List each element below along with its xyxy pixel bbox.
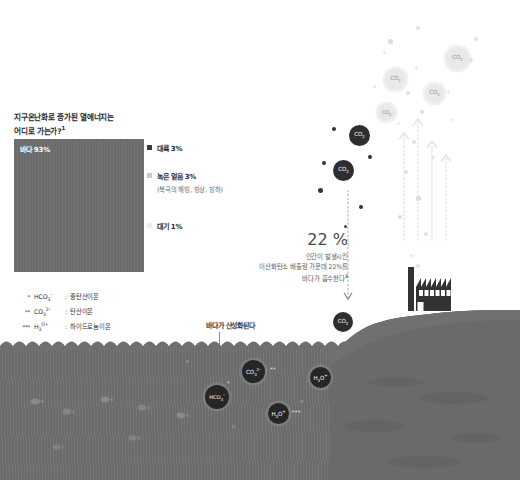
- hydronium-molecule-stars: ***: [292, 409, 301, 415]
- carbonate-molecule: CO32–: [242, 360, 265, 383]
- particle-dot: [469, 58, 473, 62]
- hydronium-molecule: H3O+: [268, 403, 289, 424]
- co2-absorption-desc-line2: 이산화탄소 배출량 가운데 22%를: [228, 262, 348, 272]
- underwater-bubble: [186, 360, 189, 363]
- underwater-bubble: [232, 425, 235, 428]
- footnote-separator: :: [65, 308, 67, 315]
- legend-item-melted-ice: 녹은 얼음 3%: [147, 171, 196, 181]
- particle-dot: [415, 66, 418, 69]
- footnote-stars-carbonate: **: [8, 309, 30, 315]
- particle-dot-dark: [359, 205, 363, 209]
- footnote-meaning-hydronium: 하이드로늄이온: [70, 322, 111, 331]
- legend-swatch-atmosphere: [147, 223, 152, 228]
- land-foreground: [330, 282, 520, 480]
- particle-dot-dark: [322, 161, 326, 165]
- fish-icon: [62, 408, 75, 415]
- fish-icon: [30, 398, 44, 405]
- particle-dot-dark: [332, 127, 336, 131]
- footnote-formula-hydronium: H3O+: [34, 322, 62, 332]
- co2-molecule-dark: CO2: [333, 160, 354, 181]
- legend-label-atmosphere: 대기 1%: [157, 221, 182, 231]
- footnote-stars-hydronium: ***: [8, 324, 30, 330]
- hydronium-molecule-label: H3O+: [313, 373, 327, 383]
- co2-absorption-callout: 22 % 인간이 발생시킨 이산화탄소 배출량 가운데 22%를 바다가 흡수한…: [228, 232, 348, 284]
- co2-molecule-label: CO2: [429, 89, 440, 97]
- legend-swatch-continent: [147, 145, 152, 150]
- carbonate-molecule-stars: **: [270, 366, 276, 372]
- fish-icon: [176, 412, 189, 419]
- bicarbonate-molecule-label: HCO3–: [209, 392, 225, 402]
- ocean-share-chart: [14, 139, 144, 272]
- co2-molecule-light: CO2: [446, 47, 469, 70]
- particle-dot: [388, 39, 393, 44]
- co2-absorption-description: 인간이 발생시킨 이산화탄소 배출량 가운데 22%를 바다가 흡수한다3: [228, 252, 348, 284]
- particle-dot: [410, 254, 413, 257]
- co2-molecule-light: CO2: [378, 104, 395, 121]
- co2-absorption-percent: 22 %: [228, 232, 348, 248]
- co2-molecule-light: CO2: [425, 84, 444, 103]
- page-title-line2-text: 어디로 가는가?: [14, 126, 61, 135]
- footnote-separator: :: [65, 323, 67, 330]
- co2-molecule-label: CO2: [338, 166, 349, 174]
- co2-absorption-desc-line1: 인간이 발생시킨: [228, 252, 348, 262]
- particle-dot: [474, 37, 478, 41]
- co2-molecule-label: CO2: [382, 109, 392, 117]
- underwater-bubble: [300, 400, 303, 403]
- footnote-row-hydronium: *** H3O+ : 하이드로늄이온: [8, 322, 158, 332]
- co2-absorption-footnote-marker: 3: [345, 274, 348, 279]
- fish-icon: [100, 396, 113, 403]
- co2-molecule-label: CO2: [338, 318, 349, 326]
- particle-dot: [406, 91, 410, 95]
- footnote-separator: :: [65, 293, 67, 300]
- carbonate-molecule-label: CO32–: [246, 367, 261, 377]
- fish-icon: [128, 435, 140, 441]
- footnote-key: * HCO3– : 중탄산이온 ** CO32– : 탄산이온 *** H3O+…: [8, 292, 158, 337]
- co2-molecule-label: CO2: [354, 131, 365, 139]
- particle-dot-dark: [318, 188, 323, 193]
- particle-dot-dark: [368, 155, 372, 159]
- co2-molecule-light: CO2: [385, 69, 406, 90]
- heat-radiation-arrows: [396, 112, 460, 242]
- bicarbonate-molecule: HCO3–: [205, 385, 229, 409]
- legend-label-continent: 대륙 3%: [157, 143, 182, 153]
- page-title-line1: 지구온난화로 증가된 열에너지는: [14, 112, 174, 124]
- footnote-formula-carbonate: CO32–: [34, 307, 62, 317]
- legend-label-melted-ice: 녹은 얼음 3%: [157, 171, 196, 181]
- page-title-footnote-marker: 1: [61, 125, 65, 131]
- footnote-meaning-carbonate: 탄산이온: [70, 307, 93, 316]
- footnote-stars-bicarbonate: *: [8, 294, 30, 300]
- bicarbonate-molecule-stars: *: [227, 380, 230, 386]
- particle-dot: [447, 90, 450, 93]
- hydronium-molecule-label: H3O+: [271, 409, 285, 419]
- ocean-share-label: 바다 93%: [20, 144, 50, 154]
- footnote-meaning-bicarbonate: 중탄산이온: [70, 292, 99, 301]
- particle-dot: [383, 51, 386, 54]
- particle-dot: [373, 85, 376, 88]
- co2-molecule-dark: CO2: [349, 125, 370, 146]
- page-title: 지구온난화로 증가된 열에너지는 어디로 가는가?1: [14, 112, 174, 137]
- page-title-line2: 어디로 가는가?1: [14, 124, 174, 137]
- particle-dot: [416, 26, 420, 30]
- legend-sublabel-melted-ice: (북극의 해빙, 빙상, 빙하): [157, 185, 223, 194]
- legend-swatch-melted-ice: [147, 173, 152, 178]
- legend-item-continent: 대륙 3%: [147, 143, 182, 153]
- footnote-row-bicarbonate: * HCO3– : 중탄산이온: [8, 292, 158, 302]
- footnote-row-carbonate: ** CO32– : 탄산이온: [8, 307, 158, 317]
- acidification-label: 바다가 산성화된다: [206, 320, 255, 330]
- infographic-canvas: 지구온난화로 증가된 열에너지는 어디로 가는가?1 바다 93% 대륙 3% …: [0, 0, 520, 480]
- co2-molecule-label: CO2: [452, 54, 463, 62]
- hydronium-molecule: H3O+: [310, 367, 331, 388]
- co2-molecule-label: CO2: [390, 75, 401, 83]
- co2-molecule-entering-ocean: CO2: [333, 312, 353, 332]
- footnote-formula-bicarbonate: HCO3–: [34, 292, 62, 302]
- legend-item-atmosphere: 대기 1%: [147, 221, 182, 231]
- fish-icon: [52, 444, 64, 450]
- fish-icon: [137, 404, 150, 411]
